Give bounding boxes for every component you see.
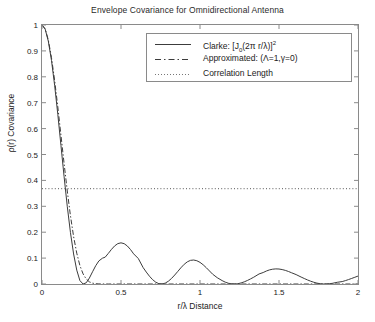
legend-item-correlation-length: Correlation Length (147, 66, 351, 81)
x-axis-label: r/λ Distance (41, 301, 359, 311)
y-tick-label: 0.8 (2, 72, 38, 81)
x-tick-label: 1 (198, 288, 202, 297)
legend-line-sample-dotted (155, 73, 191, 74)
legend-line-sample-solid (155, 43, 191, 44)
y-tick-label: 0.9 (2, 46, 38, 55)
y-tick-label: 0 (2, 280, 38, 289)
y-tick-label: 0.1 (2, 254, 38, 263)
y-tick-label: 0.2 (2, 228, 38, 237)
x-tick-label: 2 (356, 288, 360, 297)
y-tick-label: 1 (2, 21, 38, 30)
legend-item-approximated: Approximated: (Λ=1,γ=0) (147, 51, 351, 66)
y-tick-label: 0.3 (2, 202, 38, 211)
legend-label-correlation-length: Correlation Length (203, 67, 273, 80)
x-tick-label: 0 (40, 288, 44, 297)
legend-item-clarke: Clarke: [J0(2π r/λ)]2 (147, 36, 351, 51)
y-tick-label: 0.6 (2, 124, 38, 133)
chart-legend: Clarke: [J0(2π r/λ)]2 Approximated: (Λ=1… (146, 33, 352, 82)
y-tick-label: 0.7 (2, 98, 38, 107)
chart-figure: Envelope Covariance for Omnidirectional … (0, 0, 375, 322)
x-tick-label: 0.5 (115, 288, 126, 297)
x-tick-label: 1.5 (273, 288, 284, 297)
y-axis-tick-labels: 00.10.20.30.40.50.60.70.80.91 (0, 24, 38, 285)
legend-line-sample-dashdot (155, 58, 191, 59)
y-tick-label: 0.4 (2, 176, 38, 185)
x-axis-tick-labels: 00.511.52 (41, 288, 359, 300)
legend-label-approximated: Approximated: (Λ=1,γ=0) (203, 52, 298, 65)
chart-title: Envelope Covariance for Omnidirectional … (0, 5, 375, 15)
y-tick-label: 0.5 (2, 150, 38, 159)
